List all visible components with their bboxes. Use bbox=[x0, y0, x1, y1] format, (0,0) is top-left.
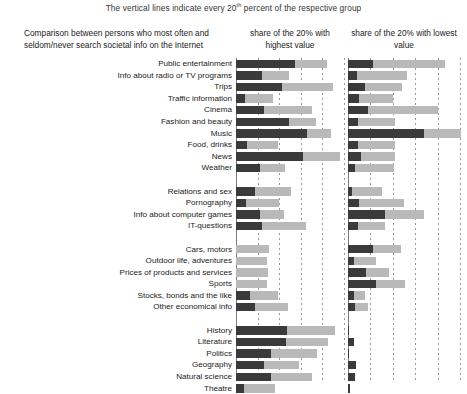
bar-segment-light bbox=[352, 187, 381, 195]
column-header-lowest: share of the 20% with lowest value bbox=[348, 28, 460, 51]
bar-segment-dark bbox=[348, 210, 385, 218]
row-panel-lowest bbox=[348, 197, 460, 209]
stacked-bar-highest bbox=[236, 60, 327, 68]
row-label: IT-questions bbox=[188, 220, 232, 232]
row-panel-lowest bbox=[348, 301, 460, 313]
row-panel-lowest bbox=[348, 162, 460, 174]
stacked-bar-lowest bbox=[348, 384, 350, 392]
bar-segment-dark bbox=[236, 141, 247, 149]
row-panel-highest bbox=[236, 348, 344, 360]
row-panel-lowest bbox=[348, 371, 460, 383]
stacked-bar-highest bbox=[236, 268, 268, 276]
bar-segment-dark bbox=[348, 141, 358, 149]
stacked-bar-lowest bbox=[348, 94, 393, 102]
chart-row: Other economical info bbox=[0, 301, 467, 313]
row-label: Info about radio or TV programs bbox=[117, 70, 232, 82]
stacked-bar-highest bbox=[236, 384, 275, 392]
stacked-bar-highest bbox=[236, 129, 331, 137]
chart-row: Natural science bbox=[0, 371, 467, 383]
bar-segment-light bbox=[255, 187, 291, 195]
bar-segment-light bbox=[357, 71, 407, 79]
row-panel-lowest bbox=[348, 58, 460, 70]
row-label: Traffic information bbox=[168, 93, 232, 105]
row-panel-lowest bbox=[348, 383, 460, 394]
bar-segment-dark bbox=[236, 83, 282, 91]
row-panel-lowest bbox=[348, 70, 460, 82]
row-panel-lowest bbox=[348, 244, 460, 256]
row-panel-highest bbox=[236, 301, 344, 313]
subtitle-post: percent of the respective group bbox=[241, 3, 361, 13]
chart-row: Food, drinks bbox=[0, 139, 467, 151]
bar-segment-light bbox=[424, 129, 461, 137]
bar-segment-light bbox=[264, 361, 299, 369]
bar-segment-dark bbox=[236, 384, 244, 392]
chart-row: Weather bbox=[0, 162, 467, 174]
stacked-bar-highest bbox=[236, 83, 333, 91]
stacked-bar-lowest bbox=[348, 245, 401, 253]
row-panel-highest bbox=[236, 139, 344, 151]
stacked-bar-highest bbox=[236, 199, 279, 207]
bar-segment-light bbox=[366, 268, 390, 276]
bar-segment-dark bbox=[348, 83, 365, 91]
row-panel-highest bbox=[236, 220, 344, 232]
bar-segment-dark bbox=[348, 60, 373, 68]
chart-row: Public entertainment bbox=[0, 58, 467, 70]
stacked-bar-lowest bbox=[348, 106, 438, 114]
bar-segment-dark bbox=[236, 303, 255, 311]
row-label: Sports bbox=[209, 278, 232, 290]
stacked-bar-highest bbox=[236, 106, 312, 114]
bar-segment-light bbox=[354, 257, 376, 265]
stacked-bar-lowest bbox=[348, 152, 395, 160]
bar-segment-light bbox=[236, 245, 269, 253]
bar-segment-dark bbox=[236, 222, 262, 230]
bar-segment-light bbox=[262, 222, 306, 230]
stacked-bar-highest bbox=[236, 187, 291, 195]
row-label: Geography bbox=[192, 359, 232, 371]
stacked-bar-lowest bbox=[348, 60, 445, 68]
row-panel-highest bbox=[236, 151, 344, 163]
chart-row: Outdoor life, adventures bbox=[0, 255, 467, 267]
stacked-bar-lowest bbox=[348, 303, 368, 311]
bar-segment-dark bbox=[236, 94, 245, 102]
row-panel-lowest bbox=[348, 139, 460, 151]
group-spacer bbox=[0, 313, 467, 325]
row-panel-highest bbox=[236, 116, 344, 128]
row-panel-lowest bbox=[348, 128, 460, 140]
bar-segment-light bbox=[361, 152, 395, 160]
stacked-bar-highest bbox=[236, 94, 273, 102]
row-label: Natural science bbox=[176, 371, 232, 383]
stacked-bar-highest bbox=[236, 303, 288, 311]
bar-segment-light bbox=[355, 164, 394, 172]
chart-row: Theatre bbox=[0, 383, 467, 394]
stacked-bar-highest bbox=[236, 71, 289, 79]
stacked-bar-highest bbox=[236, 210, 284, 218]
row-panel-lowest bbox=[348, 151, 460, 163]
stacked-bar-highest bbox=[236, 245, 269, 253]
bar-segment-dark bbox=[236, 164, 260, 172]
row-panel-lowest bbox=[348, 359, 460, 371]
row-panel-highest bbox=[236, 70, 344, 82]
chart-row: IT-questions bbox=[0, 220, 467, 232]
stacked-bar-lowest bbox=[348, 349, 349, 357]
bar-segment-dark bbox=[348, 338, 354, 346]
bar-segment-dark bbox=[348, 199, 359, 207]
row-panel-highest bbox=[236, 325, 344, 337]
bar-segment-dark bbox=[348, 303, 355, 311]
bar-segment-light bbox=[376, 280, 405, 288]
row-panel-highest bbox=[236, 359, 344, 371]
row-label: Theatre bbox=[204, 383, 232, 394]
row-label: Stocks, bonds and the like bbox=[138, 290, 233, 302]
bar-segment-dark bbox=[236, 71, 262, 79]
row-label: Literature bbox=[198, 336, 232, 348]
bar-segment-light bbox=[250, 291, 278, 299]
bar-segment-dark bbox=[348, 129, 424, 137]
bar-segment-dark bbox=[236, 118, 289, 126]
bar-segment-light bbox=[307, 129, 331, 137]
row-label: Music bbox=[211, 128, 232, 140]
row-panel-highest bbox=[236, 267, 344, 279]
bar-segment-dark bbox=[348, 222, 358, 230]
row-label: Relations and sex bbox=[168, 186, 232, 198]
row-label: Politics bbox=[206, 348, 232, 360]
bar-segment-light bbox=[282, 83, 333, 91]
bar-segment-dark bbox=[236, 338, 286, 346]
